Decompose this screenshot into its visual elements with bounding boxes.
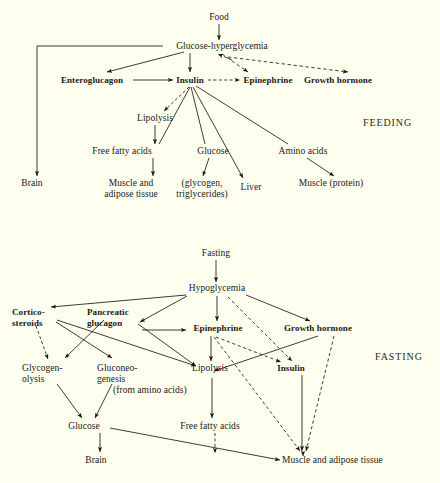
pathway-arrows bbox=[0, 0, 440, 483]
edge-glucose-to-epinephrine bbox=[222, 54, 248, 72]
edge-cortico-steroids-to-glycogenolysis bbox=[36, 326, 48, 359]
node-epinephrine: Epinephrine bbox=[239, 75, 297, 86]
node-free-fatty-acids-fasting: Free fatty acids bbox=[177, 421, 243, 432]
edge-growth-hormone-to-muscle-adipose bbox=[306, 336, 334, 451]
node-pancreatic-glucagon: Pancreatic glucagon bbox=[87, 307, 139, 328]
edge-insulin-to-liver bbox=[193, 87, 243, 178]
node-cortico-steroids: Cortico- steroids bbox=[12, 307, 56, 328]
node-muscle-and-adipose-tissue-fasting: Muscle and adipose tissue bbox=[282, 455, 394, 466]
node-liver: Liver bbox=[238, 182, 264, 193]
edge-glucose-to-growth-hormone bbox=[228, 57, 348, 72]
phase-label-feeding: FEEDING bbox=[363, 117, 412, 128]
edge-epinephrine-to-insulin bbox=[216, 337, 281, 362]
edge-hypoglycemia-to-growth-hormone bbox=[246, 295, 310, 321]
figure-canvas: Food Glucose-hyperglycemia Enteroglucago… bbox=[0, 0, 440, 483]
node-muscle-protein: Muscle (protein) bbox=[295, 178, 367, 189]
node-epinephrine-fasting: Epinephrine bbox=[188, 323, 248, 334]
node-free-fatty-acids: Free fatty acids bbox=[89, 146, 155, 157]
edge-glucose-to-glycogen-triglycerides bbox=[203, 158, 209, 176]
node-glycogenolysis: Glycogen- olysis bbox=[22, 363, 70, 384]
phase-label-fasting: FASTING bbox=[375, 351, 423, 362]
node-glucose: Glucose bbox=[194, 146, 232, 157]
edge-insulin-to-lipolysis bbox=[164, 87, 189, 111]
node-insulin: Insulin bbox=[173, 75, 207, 86]
node-muscle-and-adipose-tissue: Muscle and adipose tissue bbox=[100, 178, 162, 199]
node-enteroglucagon: Enteroglucagon bbox=[54, 75, 130, 86]
node-brain: Brain bbox=[19, 178, 45, 189]
node-lipolysis-fasting: Lipolysis bbox=[189, 363, 231, 374]
node-glucose-fasting: Glucose bbox=[64, 421, 104, 432]
node-from-amino-acids: (from amino acids) bbox=[113, 385, 193, 396]
edge-hypoglycemia-to-pancreatic-glucagon bbox=[140, 296, 187, 322]
node-growth-hormone: Growth hormone bbox=[302, 75, 374, 86]
node-insulin-fasting: Insulin bbox=[274, 363, 308, 374]
node-hypoglycemia: Hypoglycemia bbox=[184, 283, 250, 294]
node-gluconeogenesis: Gluconeo- genesis bbox=[97, 363, 143, 384]
edge-glycogenolysis-to-glucose bbox=[57, 384, 82, 418]
node-brain-fasting: Brain bbox=[83, 455, 109, 466]
node-fasting: Fasting bbox=[196, 248, 236, 259]
node-glucose-hyperglycemia: Glucose-hyperglycemia bbox=[163, 41, 281, 52]
edge-glucose-to-muscle-adipose-f bbox=[110, 428, 280, 460]
edge-hypoglycemia-to-cortico-steroids bbox=[51, 295, 186, 307]
edge-glucose-to-brain-elbow bbox=[37, 46, 163, 176]
edge-epinephrine-to-muscle-adipose bbox=[214, 337, 300, 451]
node-glycogen-triglycerides: (glycogen, triglycerides) bbox=[173, 178, 231, 199]
node-growth-hormone-fasting: Growth hormone bbox=[283, 323, 353, 334]
edge-glucose-to-enteroglucagon bbox=[107, 52, 184, 72]
edge-gluconeogenesis-to-glucose bbox=[95, 384, 112, 418]
node-food: Food bbox=[202, 12, 236, 23]
edge-amino-acids-to-muscle-protein bbox=[307, 158, 334, 176]
node-lipolysis: Lipolysis bbox=[134, 113, 176, 124]
edge-insulin-to-amino-acids bbox=[196, 86, 288, 144]
node-amino-acids: Amino acids bbox=[276, 146, 330, 157]
